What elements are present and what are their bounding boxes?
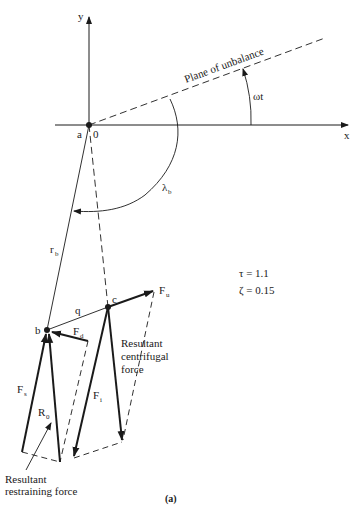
omega-t-angle: ωt [243, 69, 263, 125]
fs-label: F [17, 383, 23, 395]
fd-sub: d [80, 332, 84, 340]
tau-value: τ = 1.1 [239, 267, 269, 279]
origin-to-c-dashed [89, 125, 108, 307]
plane-label: Plane of unbalance [183, 45, 266, 85]
r0-arrow [49, 334, 60, 462]
force-diagram: y x a 0 Plane of unbalance ωt λ b r b q … [0, 0, 364, 516]
fi-label: F [93, 389, 99, 401]
r-b-sub: b [55, 250, 59, 258]
restraining-line1: Resultant [5, 473, 47, 485]
omega-t-arc [243, 69, 251, 125]
point-c-label: c [112, 293, 117, 305]
plane-line [89, 38, 325, 125]
lambda-b-arc [74, 99, 178, 212]
restraining-dashed-bottom [22, 452, 60, 462]
figure-caption: (a) [165, 493, 177, 505]
centrifugal-line3: force [121, 363, 144, 375]
point-b-label: b [35, 324, 41, 336]
lambda-b-sub: b [168, 188, 172, 196]
centrifugal-dashed-bottom [74, 442, 122, 458]
centrifugal-resultant-arrow [108, 307, 122, 440]
x-axis-label: x [344, 129, 350, 141]
centrifugal-force-group: F i [74, 292, 154, 458]
point-c-group: F u c [108, 284, 170, 307]
restraining-line2: restraining force [5, 485, 77, 497]
r-b-line [47, 125, 89, 330]
plane-of-unbalance: Plane of unbalance [89, 38, 325, 125]
omega-t-label: ωt [253, 90, 263, 102]
lambda-b-angle: λ b [74, 99, 178, 212]
fd-label: F [73, 325, 79, 337]
centrifugal-line2: centrifugal [121, 350, 169, 362]
parameters: τ = 1.1 ζ = 0.15 [239, 267, 275, 297]
restraining-pointer [26, 423, 51, 470]
zeta-value: ζ = 0.15 [239, 284, 275, 297]
restraining-dashed-right [60, 341, 88, 462]
origin-label-a: a [77, 128, 82, 140]
point-b [44, 327, 50, 333]
origin-label-0: 0 [93, 128, 99, 140]
centrifugal-line1: Resultant [121, 337, 163, 349]
fu-sub: u [166, 291, 170, 299]
q-label: q [75, 304, 81, 316]
r0-label: R [38, 406, 46, 418]
y-axis-label: y [78, 10, 84, 22]
fs-sub: s [24, 390, 27, 398]
radius-lines: r b [47, 125, 108, 330]
fi-sub: i [100, 396, 102, 404]
fu-label: F [159, 284, 165, 296]
fd-group: F d [52, 325, 88, 341]
r0-sub: 0 [46, 413, 50, 421]
centrifugal-annotation: Resultant centrifugal force [121, 337, 169, 375]
point-c [105, 304, 111, 310]
r-b-label: r [50, 243, 54, 255]
origin-point [86, 122, 92, 128]
